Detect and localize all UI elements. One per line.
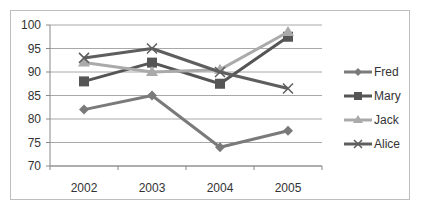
series-line	[84, 49, 288, 89]
series-alice	[79, 44, 293, 94]
legend-item-mary: Mary	[344, 89, 401, 103]
y-tick-label: 70	[28, 159, 42, 173]
legend-label: Mary	[374, 89, 401, 103]
x-tick-label: 2003	[139, 181, 166, 195]
legend-label: Alice	[374, 137, 400, 151]
x-tick-label: 2005	[275, 181, 302, 195]
series-line	[84, 32, 288, 72]
y-tick-label: 90	[28, 65, 42, 79]
y-tick-label: 85	[28, 89, 42, 103]
y-tick-label: 95	[28, 42, 42, 56]
y-tick-label: 75	[28, 136, 42, 150]
y-tick-label: 100	[21, 18, 41, 32]
gridlines: 707580859095100	[21, 18, 322, 173]
square-marker-icon	[215, 79, 225, 89]
line-chart: 7075808590951002002200320042005FredMaryJ…	[0, 0, 422, 210]
legend-item-alice: Alice	[344, 137, 400, 151]
series-line	[84, 96, 288, 148]
y-tick-label: 80	[28, 112, 42, 126]
legend-item-jack: Jack	[344, 113, 400, 127]
square-marker-icon	[354, 92, 362, 100]
diamond-marker-icon	[283, 126, 293, 136]
x-tick-label: 2004	[207, 181, 234, 195]
legend-label: Fred	[374, 65, 399, 79]
x-tick-label: 2002	[71, 181, 98, 195]
legend-label: Jack	[374, 113, 400, 127]
square-marker-icon	[79, 76, 89, 86]
triangle-marker-icon	[282, 26, 294, 36]
diamond-marker-icon	[354, 68, 362, 76]
legend: FredMaryJackAlice	[344, 65, 401, 151]
legend-item-fred: Fred	[344, 65, 399, 79]
diamond-marker-icon	[79, 105, 89, 115]
series-jack	[78, 26, 294, 76]
